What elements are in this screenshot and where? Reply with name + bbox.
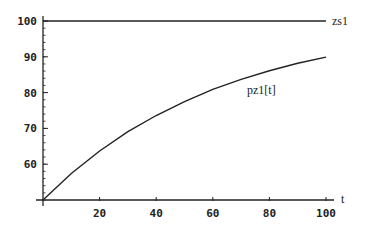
y-tick-label: 80 (24, 87, 37, 100)
x-tick-label: 60 (206, 207, 219, 220)
x-tick-label: 100 (316, 207, 336, 220)
x-tick-label: 40 (150, 207, 163, 220)
x-tick-label: 80 (263, 207, 276, 220)
y-tick-label: 100 (17, 15, 37, 28)
x-axis-label: t (341, 192, 345, 206)
pz1-label: pz1[t] (247, 83, 276, 97)
y-tick-label: 60 (24, 158, 37, 171)
chart: 20406080100 60708090100 zs1 pz1[t] t (0, 0, 365, 232)
y-tick-label: 70 (24, 122, 37, 135)
pz1-curve (43, 57, 326, 200)
x-tick-label: 20 (93, 207, 106, 220)
zs1-label: zs1 (332, 14, 348, 28)
y-tick-label: 90 (24, 51, 37, 64)
